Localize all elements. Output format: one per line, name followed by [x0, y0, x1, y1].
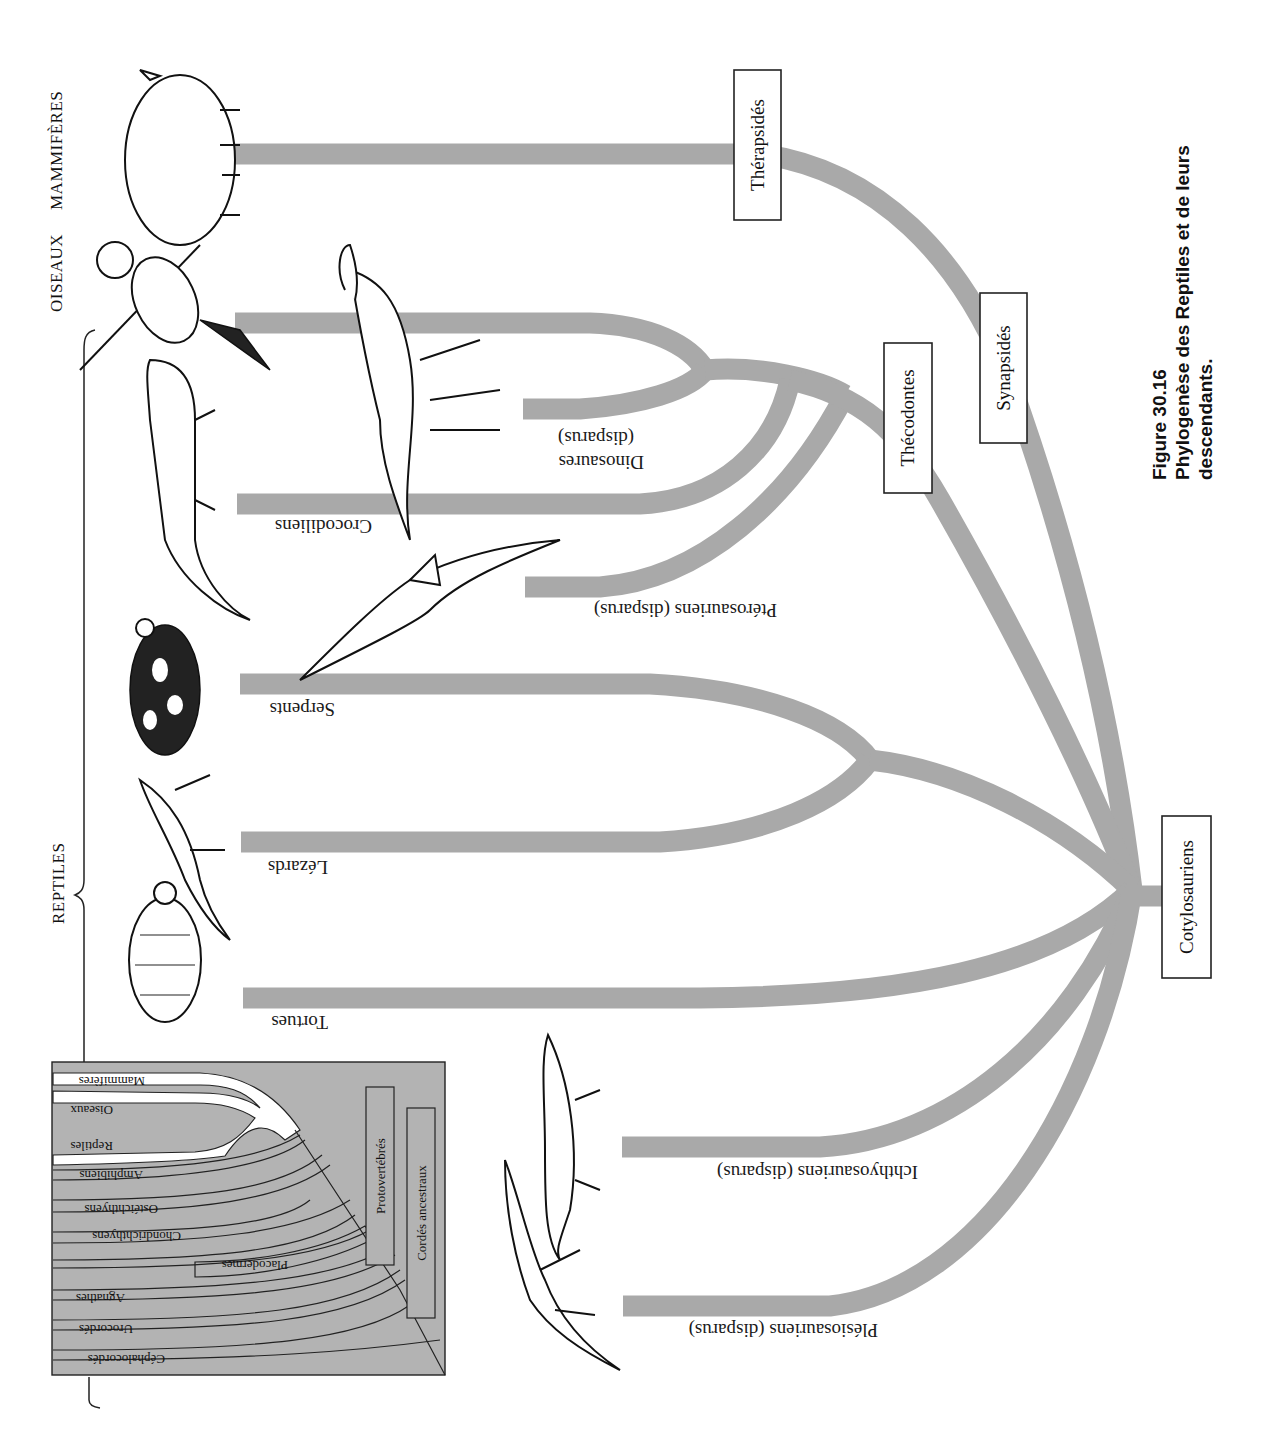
label-pterosauriens: Ptérosauriens (disparus): [594, 599, 777, 621]
node-label-cotylosauriens: Cotylosauriens: [1176, 840, 1197, 954]
mammal-illustration: [125, 70, 240, 245]
inset-band-amphibiens: Amphibiens: [79, 1168, 143, 1183]
inset-band-chondrichthyens: Chondrichthyens: [92, 1229, 181, 1244]
branch-lezards: [241, 760, 870, 842]
inset-band-osteichthyens: Ostéichthyens: [84, 1202, 158, 1217]
label-plesiosauriens: Plésiosauriens (disparus): [689, 1319, 878, 1341]
node-label-synapsides: Synapsidés: [993, 325, 1014, 411]
bird-illustration: [80, 242, 270, 370]
group-label-reptiles: REPTILES: [49, 843, 68, 924]
label-tortues: Tortues: [271, 1012, 328, 1033]
inset-band-urocordes: Urocordés: [79, 1322, 133, 1337]
node-synapsides: Synapsidés: [980, 293, 1027, 443]
inset-bracket-tail: [89, 1377, 100, 1408]
inset-band-placodermes: Placodermes: [222, 1258, 288, 1273]
crocodile-illustration: [147, 360, 250, 620]
node-thecodontes: Thécodontes: [884, 343, 932, 493]
inset-phylogeny: Protovertébrés Cordés ancestraux Mammifè…: [52, 1062, 445, 1375]
node-label-therapsides: Thérapsidés: [747, 99, 768, 191]
label-lezards: Lézards: [268, 857, 328, 878]
branch-crocodiliens: [237, 380, 790, 504]
branch-tortues: [243, 890, 1132, 998]
caption-figure-number: Figure 30.16: [1149, 369, 1170, 480]
inset-band-cephalocordes: Céphalocordés: [88, 1352, 165, 1367]
node-label-thecodontes: Thécodontes: [897, 369, 918, 466]
group-label-oiseaux: OISEAUX: [47, 234, 66, 312]
inset-label-protovertebres: Protovertébrés: [373, 1138, 388, 1214]
branch-oiseaux: [235, 323, 705, 370]
reptiles-bracket: [75, 330, 95, 1062]
inset-band-agnathes: Agnathes: [76, 1291, 125, 1306]
pterosaur-illustration: [300, 540, 560, 680]
figure-caption: Figure 30.16 Phylogenèse des Reptiles et…: [1149, 145, 1216, 480]
label-crocodiliens: Crocodiliens: [275, 516, 372, 537]
branch-serpents: [240, 684, 870, 760]
ichthyosaur-illustration: [543, 1035, 600, 1260]
node-cotylosauriens: Cotylosauriens: [1162, 816, 1211, 978]
label-serpents: Serpents: [270, 699, 335, 720]
branch-dinosaures: [523, 370, 705, 409]
phylogeny-diagram: Thérapsidés Synapsidés Thécodontes Cotyl…: [0, 0, 1274, 1449]
group-label-mammiferes: MAMMIFÈRES: [47, 91, 66, 210]
label-dinosaures: Dinosaures: [559, 452, 644, 473]
snake-illustration: [130, 619, 200, 755]
inset-band-oiseaux: Oiseaux: [70, 1103, 113, 1118]
label-dinosaures-disparus: (disparus): [558, 427, 634, 449]
caption-title-line1: Phylogenèse des Reptiles et de leurs: [1172, 145, 1193, 480]
caption-title-line2: descendants.: [1195, 359, 1216, 480]
turtle-illustration: [129, 882, 201, 1022]
inset-band-reptiles: Reptiles: [70, 1139, 113, 1154]
node-therapsides: Thérapsidés: [734, 70, 781, 220]
label-ichthyosauriens: Ichthyosauriens (disparus): [717, 1161, 918, 1183]
inset-label-cordes-ancestraux: Cordés ancestraux: [414, 1165, 429, 1261]
inset-band-mammiferes: Mammifères: [79, 1074, 145, 1089]
